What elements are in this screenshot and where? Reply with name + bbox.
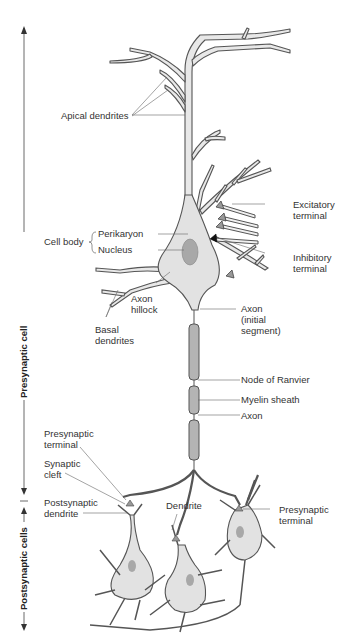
label-dendrite: Dendrite [166, 500, 202, 511]
label-basal-dendrites-2: dendrites [95, 335, 134, 346]
leader-lines [65, 77, 270, 530]
label-basal-dendrites-1: Basal [95, 324, 119, 335]
label-synaptic-cleft-2: cleft [44, 469, 61, 480]
axon [189, 310, 199, 470]
presynaptic-cell-label: Presynaptic cell [18, 326, 29, 398]
label-cell-body: Cell body [44, 236, 84, 247]
label-presynaptic-terminal-right-1: Presynaptic [279, 504, 329, 515]
label-axon-initial-2: (initial [241, 314, 266, 325]
label-axon-hillock-2: hillock [131, 304, 157, 315]
label-presynaptic-terminal-left-1: Presynaptic [44, 428, 94, 439]
label-presynaptic-terminal-left-2: terminal [44, 439, 78, 450]
label-excitatory-terminal-2: terminal [293, 210, 327, 221]
label-axon-initial-1: Axon [241, 303, 263, 314]
label-inhibitory-terminal-2: terminal [293, 263, 327, 274]
label-postsynaptic-dendrite-2: dendrite [44, 508, 78, 519]
postsynaptic-cell-1 [95, 500, 165, 625]
label-presynaptic-terminal-right-2: terminal [279, 515, 313, 526]
neuron-diagram [0, 0, 350, 638]
label-perikaryon: Perikaryon [98, 228, 143, 239]
label-axon-hillock-1: Axon [131, 293, 153, 304]
label-axon: Axon [241, 410, 263, 421]
nucleus-shape [182, 239, 198, 265]
postsynaptic-cells-label: Postsynaptic cells [18, 527, 29, 610]
label-apical-dendrites: Apical dendrites [61, 110, 129, 121]
label-nucleus: Nucleus [98, 244, 132, 255]
label-excitatory-terminal-1: Excitatory [293, 199, 335, 210]
label-axon-initial-3: segment) [241, 325, 281, 336]
label-inhibitory-terminal-1: Inhibitory [293, 252, 332, 263]
label-synaptic-cleft-1: Synaptic [44, 458, 80, 469]
label-node-of-ranvier: Node of Ranvier [241, 374, 310, 385]
cell-body-brace [89, 232, 96, 253]
cell-body [158, 195, 219, 310]
label-postsynaptic-dendrite-1: Postsynaptic [44, 497, 98, 508]
label-myelin-sheath: Myelin sheath [241, 394, 300, 405]
